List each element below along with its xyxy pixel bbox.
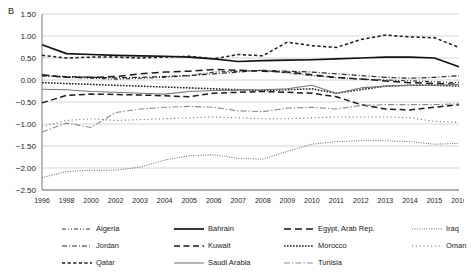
legend-label: Bahrain [208, 225, 234, 233]
x-axis-tick-label: 2005 [181, 197, 197, 204]
legend-line-swatch [62, 225, 92, 233]
y-axis-tick-label: 0.00 [20, 76, 36, 85]
legend-line-swatch [174, 259, 204, 267]
legend-line-swatch [284, 259, 314, 267]
legend-line-swatch [412, 225, 442, 233]
x-axis-tick-label: 2000 [83, 197, 99, 204]
x-axis-tick-label: 2002 [108, 197, 124, 204]
y-axis-tick-label: 0.50 [20, 54, 36, 63]
x-axis-tick-label: 2004 [157, 197, 173, 204]
legend-item[interactable]: Saudi Arabia [174, 259, 284, 267]
legend-item[interactable]: Iraq [412, 225, 471, 233]
y-axis-tick-label: 1.50 [20, 10, 36, 19]
legend-line-swatch [62, 259, 92, 267]
legend-item[interactable]: Bahrain [174, 225, 284, 233]
x-axis-tick-label: 2011 [329, 197, 344, 204]
legend-item[interactable]: Oman [412, 242, 471, 250]
legend-item[interactable]: Morocco [284, 242, 412, 250]
legend-item[interactable]: Jordan [62, 242, 174, 250]
x-axis-tick-label: 1998 [59, 197, 75, 204]
legend-item[interactable]: Tunisia [284, 259, 412, 267]
y-axis-tick-label: −1.50 [16, 142, 37, 151]
y-axis-tick-label: −1.00 [16, 120, 37, 129]
legend-line-swatch [412, 242, 442, 250]
legend-item[interactable]: Qatar [62, 259, 174, 267]
legend-line-swatch [174, 225, 204, 233]
legend-item[interactable]: Algeria [62, 225, 174, 233]
y-axis-tick-label: −0.50 [16, 98, 37, 107]
x-axis-tick-label: 2015 [427, 197, 443, 204]
series-line [42, 117, 459, 127]
legend-line-swatch [284, 225, 314, 233]
x-axis-tick-label: 1996 [34, 197, 50, 204]
series-line [42, 91, 459, 109]
x-axis-tick-label: 2010 [304, 197, 320, 204]
legend-item[interactable]: Kuwait [174, 242, 284, 250]
x-axis-tick-label: 2006 [206, 197, 222, 204]
legend-line-swatch [174, 242, 204, 250]
y-axis-ticks: 1.501.000.500.00−0.50−1.00−1.50−2.00−2.5… [16, 10, 37, 195]
x-axis-tick-label: 2007 [230, 197, 246, 204]
legend-label: Qatar [96, 259, 115, 267]
x-axis-tick-label: 2014 [402, 197, 418, 204]
y-axis-tick-label: −2.00 [16, 164, 37, 173]
x-axis-ticks: 1996199820002002200320042005200620072008… [34, 197, 464, 204]
series-line [42, 70, 459, 78]
legend-line-swatch [62, 242, 92, 250]
x-axis-tick-label: 2003 [132, 197, 148, 204]
x-axis-tick-label: 2016 [451, 197, 464, 204]
legend-label: Morocco [318, 242, 347, 250]
series-line [42, 70, 459, 82]
legend-label: Egypt, Arab Rep. [318, 225, 375, 233]
x-axis-tick-label: 2008 [255, 197, 271, 204]
x-axis-tick-label: 2009 [280, 197, 296, 204]
y-axis-tick-label: −2.50 [16, 186, 37, 195]
legend-label: Saudi Arabia [208, 259, 251, 267]
series-line [42, 69, 459, 84]
legend-label: Algeria [96, 225, 119, 233]
line-chart-svg: 1.501.000.500.00−0.50−1.00−1.50−2.00−2.5… [0, 0, 464, 218]
data-series-group [42, 35, 459, 178]
legend-label: Tunisia [318, 259, 342, 267]
legend-label: Jordan [96, 242, 119, 250]
chart-legend: AlgeriaBahrainEgypt, Arab Rep.IraqJordan… [0, 218, 464, 274]
gridlines [42, 14, 459, 190]
legend-line-swatch [284, 242, 314, 250]
legend-label: Oman [446, 242, 466, 250]
chart-plot-area: 1.501.000.500.00−0.50−1.00−1.50−2.00−2.5… [0, 0, 464, 218]
y-axis-tick-label: 1.00 [20, 32, 36, 41]
legend-item[interactable]: Egypt, Arab Rep. [284, 225, 412, 233]
legend-label: Iraq [446, 225, 459, 233]
legend-label: Kuwait [208, 242, 231, 250]
x-axis-tick-label: 2013 [378, 197, 394, 204]
x-axis-tick-label: 2012 [353, 197, 369, 204]
